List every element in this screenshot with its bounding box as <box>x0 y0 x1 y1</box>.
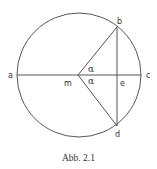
point-label-e: e <box>120 79 125 88</box>
figure: a c m b d e α α Abb. 2.1 <box>0 0 157 169</box>
point-label-a: a <box>8 71 13 80</box>
point-label-d: d <box>115 130 120 139</box>
figure-caption: Abb. 2.1 <box>0 153 157 163</box>
point-label-b: b <box>117 17 122 26</box>
radius-m-b <box>78 27 117 75</box>
point-label-c: c <box>146 71 150 80</box>
circle-geometry-diagram: a c m b d e α α <box>0 0 157 169</box>
angle-label-upper: α <box>88 64 94 74</box>
radius-m-d <box>78 75 117 126</box>
point-label-m: m <box>64 79 72 88</box>
angle-label-lower: α <box>88 76 94 86</box>
